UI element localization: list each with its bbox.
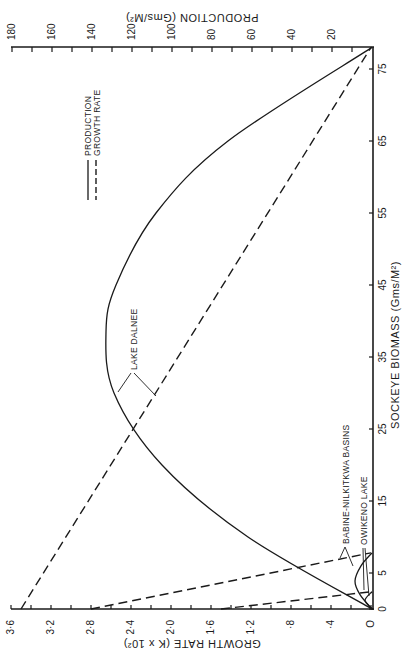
- axes: [11, 47, 374, 610]
- biomass-tick-label: 75: [377, 63, 388, 75]
- biomass-tick-label: 5: [377, 570, 388, 576]
- lake-dalnee-production-line: [106, 47, 372, 609]
- production-tick-label: 120: [126, 23, 137, 40]
- biomass-tick-label: 15: [377, 495, 388, 507]
- annotation-owikeno: OWIKENO LAKE: [359, 476, 369, 545]
- chart: 0515253545556575O·4·81·21·62·02·42·83·23…: [0, 0, 410, 649]
- production-axis-title: PRODUCTION (Gms/M²): [126, 12, 259, 24]
- lake-dalnee-growth-rate-line: [21, 47, 371, 609]
- owikeno-lake-growth-rate-line: [221, 592, 371, 609]
- production-tick-label: 100: [166, 23, 177, 40]
- production-tick-label: 40: [286, 28, 297, 40]
- biomass-axis-title: SOCKEYE BIOMASS (Gms/M²): [389, 261, 401, 429]
- production-tick-label: 160: [46, 23, 57, 40]
- production-tick-label: 20: [326, 28, 337, 40]
- annotations: LAKE DALNEE BABINE-NILKITKWA BASINS OWIK…: [118, 309, 369, 596]
- biomass-tick-label: 35: [377, 351, 388, 363]
- production-tick-label: 140: [86, 23, 97, 40]
- biomass-tick-label: 55: [377, 207, 388, 219]
- leader-dalnee-production: [118, 373, 131, 392]
- biomass-tick-label: 45: [377, 279, 388, 291]
- annotation-lake-dalnee: LAKE DALNEE: [129, 309, 139, 370]
- production-tick-label: 60: [246, 28, 257, 40]
- growth-tick-label: 2·0: [165, 620, 176, 635]
- growth-tick-label: ·8: [285, 620, 296, 629]
- growth-tick-label: 3·6: [5, 620, 16, 635]
- growth-tick-label: 3·2: [45, 620, 56, 635]
- growth-tick-label: ·4: [325, 620, 336, 629]
- growth-tick-label: 2·8: [85, 620, 96, 635]
- leader-dalnee-growth: [134, 373, 156, 396]
- growth-tick-label: 1·2: [245, 620, 256, 635]
- leader-babine: [340, 547, 353, 566]
- biomass-tick-label: 65: [377, 135, 388, 147]
- leader-owikeno: [363, 548, 369, 596]
- growth-tick-label: 2·4: [125, 620, 136, 635]
- legend: PRODUCTION GROWTH RATE: [83, 90, 102, 200]
- annotation-babine: BABINE-NILKITKWA BASINS: [341, 424, 351, 544]
- biomass-tick-label: 0: [377, 606, 388, 612]
- growth-tick-label: O: [365, 620, 376, 628]
- babine-nilkitkwa-basins-growth-rate-line: [91, 553, 371, 609]
- biomass-tick-label: 25: [377, 423, 388, 435]
- legend-growth-label: GROWTH RATE: [92, 90, 102, 156]
- growth-tick-label: 1·6: [205, 620, 216, 635]
- series: [21, 47, 372, 609]
- growth-axis-title: GROWTH RATE (K x 10²): [123, 638, 260, 649]
- production-tick-label: 80: [206, 28, 217, 40]
- production-tick-label: 180: [6, 23, 17, 40]
